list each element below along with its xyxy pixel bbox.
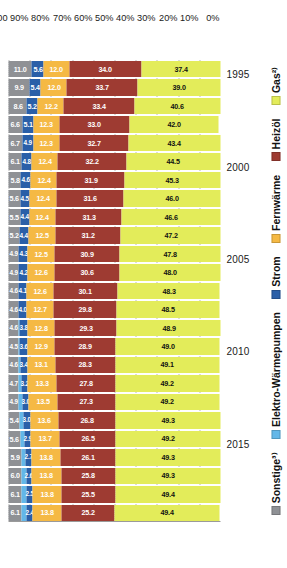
segment-value-label: 48.9 (162, 324, 175, 331)
segment-strom: 5.2 (26, 98, 37, 114)
segment-sonstige: 4.6 (8, 320, 18, 336)
segment-strom: 3.6 (19, 338, 27, 354)
segment-value-label: 4.8 (22, 158, 30, 164)
segment-value-label: 27.8 (79, 380, 92, 387)
segment-sonstige: 9.9 (8, 79, 29, 95)
segment-sonstige: 4.9 (8, 264, 18, 280)
segment-value-label: 13.8 (39, 472, 52, 479)
segment-value-label: 49.1 (160, 361, 173, 368)
percent-tick-0: 0% (206, 13, 219, 23)
segment-value-label: 4.4 (20, 214, 28, 220)
segment-fernwaerme: 12.0 (40, 79, 65, 95)
legend-swatch-icon (271, 152, 280, 161)
segment-fernwaerme: 13.5 (28, 394, 57, 410)
segment-heizoel: 25.8 (61, 468, 116, 484)
segment-value-label: 4.1 (18, 288, 26, 294)
segment-value-label: 12.6 (33, 287, 46, 294)
bar-2018: 6.12.513.825.549.4 (8, 486, 220, 502)
bar-2002: 5.64.512.431.646.0 (8, 190, 220, 206)
segment-value-label: 5.5 (9, 213, 18, 220)
segment-fernwaerme: 12.3 (33, 116, 59, 132)
segment-value-label: 4.7 (9, 380, 17, 386)
segment-value-label: 12.4 (38, 158, 51, 165)
segment-heizoel: 29.3 (54, 320, 116, 336)
segment-value-label: 5.1 (23, 121, 32, 128)
segment-strom: 5.4 (29, 79, 40, 95)
legend-item-heizoel[interactable]: Heizöl (269, 119, 281, 162)
segment-value-label: 12.6 (34, 269, 47, 276)
segment-fernwaerme: 12.9 (27, 338, 54, 354)
segment-gas: 48.3 (117, 283, 219, 299)
legend-swatch-icon (271, 506, 280, 515)
segment-sonstige: 6.7 (8, 135, 22, 151)
segment-value-label: 12.4 (36, 195, 49, 202)
segment-value-label: 49.3 (161, 417, 174, 424)
segment-strom: 2.9 (24, 431, 30, 447)
bar-1996: 9.95.412.033.739.0 (8, 79, 220, 95)
segment-heizoel: 27.3 (57, 394, 115, 410)
segment-sonstige: 5.8 (8, 172, 20, 188)
segment-heizoel: 28.3 (55, 357, 115, 373)
segment-value-label: 4.6 (9, 325, 17, 331)
segment-fernwaerme: 12.5 (28, 227, 54, 243)
segment-value-label: 26.8 (80, 417, 93, 424)
bar-2004: 5.24.412.531.247.2 (8, 227, 220, 243)
segment-fernwaerme: 12.5 (27, 246, 53, 262)
percent-tick-40: 40% (116, 13, 134, 23)
legend-swatch-icon (271, 430, 280, 439)
segment-sonstige: 5.6 (8, 190, 20, 206)
legend-item-waermepumpen[interactable]: Elektro-Wärmepumpen (269, 312, 281, 439)
legend-item-gas[interactable]: Gas²⁾ (269, 67, 281, 105)
segment-heizoel: 31.3 (55, 209, 121, 225)
segment-heizoel: 29.8 (53, 301, 116, 317)
segment-strom: 2.7 (25, 449, 31, 465)
segment-sonstige: 6.1 (8, 153, 21, 169)
legend-item-sonstige[interactable]: Sonstige³⁾ (269, 452, 281, 515)
segment-fernwaerme: 12.8 (27, 320, 54, 336)
segment-sonstige: 5.5 (8, 209, 20, 225)
segment-fernwaerme: 12.7 (26, 301, 53, 317)
legend-label: Fernwärme (269, 175, 281, 231)
percent-tick-30: 30% (137, 13, 155, 23)
segment-value-label: 3.2 (20, 380, 28, 386)
segment-value-label: 31.9 (84, 176, 97, 183)
legend-item-strom[interactable]: Strom (269, 256, 281, 298)
legend-swatch-icon (271, 96, 280, 105)
segment-heizoel: 33.0 (59, 116, 129, 132)
segment-fernwaerme: 12.4 (30, 172, 56, 188)
segment-value-label: 13.3 (35, 380, 48, 387)
segment-value-label: 46.6 (164, 213, 177, 220)
segment-value-label: 12.3 (39, 139, 52, 146)
segment-gas: 42.0 (129, 116, 218, 132)
bar-2008: 4.64.012.729.848.5 (8, 301, 220, 317)
segment-fernwaerme: 12.4 (29, 209, 55, 225)
segment-strom: 3.0 (23, 412, 29, 428)
legend-item-fernwaerme[interactable]: Fernwärme (269, 175, 281, 243)
segment-value-label: 4.6 (9, 306, 17, 312)
percent-tick-100: 100 (0, 13, 7, 23)
segment-fernwaerme: 13.8 (32, 505, 61, 521)
segment-fernwaerme: 12.0 (43, 61, 68, 77)
segment-strom: 4.6 (20, 172, 30, 188)
bar-2017: 6.02.613.825.849.3 (8, 468, 220, 484)
segment-value-label: 4.3 (19, 251, 27, 257)
segment-fernwaerme: 12.6 (27, 264, 54, 280)
segment-sonstige: 4.6 (8, 357, 18, 373)
segment-fernwaerme: 12.3 (33, 135, 59, 151)
segment-value-label: 12.3 (39, 121, 52, 128)
segment-value-label: 13.8 (40, 509, 53, 516)
segment-value-label: 31.3 (82, 213, 95, 220)
segment-value-label: 27.3 (79, 398, 92, 405)
segment-sonstige: 5.4 (8, 412, 19, 428)
segment-fernwaerme: 13.6 (30, 412, 59, 428)
segment-gas: 48.5 (116, 301, 219, 317)
segment-heizoel: 33.7 (66, 79, 137, 95)
segment-heizoel: 30.6 (54, 264, 119, 280)
segment-gas: 47.8 (119, 246, 220, 262)
segment-gas: 49.3 (115, 449, 220, 465)
segment-value-label: 49.2 (160, 398, 173, 405)
segment-value-label: 42.0 (167, 121, 180, 128)
segment-strom: 2.6 (26, 468, 32, 484)
segment-sonstige: 4.6 (8, 301, 18, 317)
segment-value-label: 4.9 (9, 399, 17, 405)
